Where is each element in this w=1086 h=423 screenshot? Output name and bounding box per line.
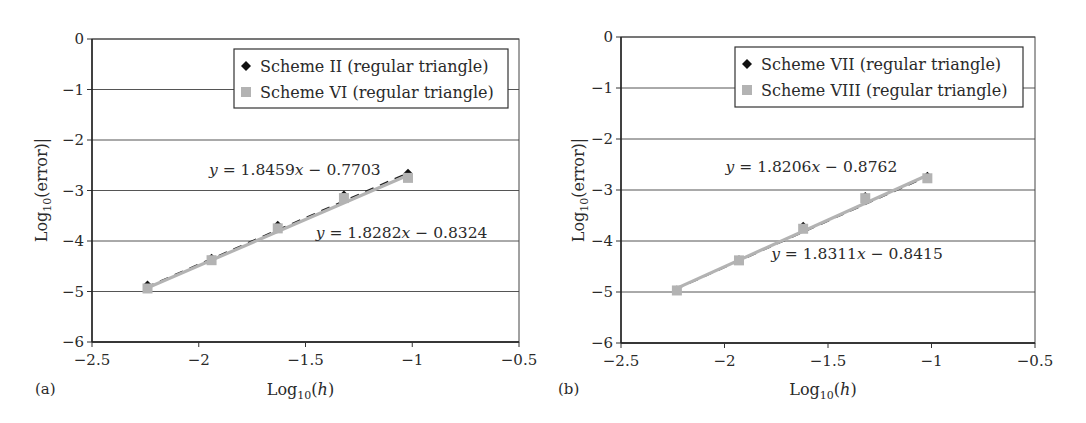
- y-tick-label: −4: [62, 232, 84, 250]
- x-tick-label: −0.5: [1017, 352, 1053, 370]
- y-tick-label: −6: [62, 333, 84, 351]
- legend: Scheme VII (regular triangle)Scheme VIII…: [735, 47, 1023, 107]
- data-point-square: [339, 193, 349, 203]
- x-tick-label: −1.5: [287, 351, 323, 369]
- y-tick-label: −2: [591, 130, 613, 148]
- x-tick-label: −1.5: [810, 352, 846, 370]
- y-axis-label: Log10(error)|: [32, 138, 54, 242]
- x-tick-label: −2: [713, 352, 735, 370]
- y-axis-label: Log10(error)|: [569, 138, 591, 242]
- panel-label: (a): [35, 380, 56, 398]
- x-tick-label: −2.5: [74, 351, 110, 369]
- y-tick-label: −5: [591, 283, 613, 301]
- legend-entry: Scheme II (regular triangle): [260, 57, 489, 76]
- legend-entry: Scheme VI (regular triangle): [260, 83, 494, 102]
- data-point-square: [672, 285, 682, 295]
- y-tick-label: −5: [62, 283, 84, 301]
- legend-marker-square-icon: [241, 87, 251, 97]
- data-point-square: [798, 224, 808, 234]
- panel-label: (b): [558, 380, 579, 398]
- data-point-square: [273, 223, 283, 233]
- fit-equation: y = 1.8206x − 0.8762: [725, 158, 898, 176]
- x-tick-label: −1: [920, 352, 942, 370]
- x-axis-label: Log10(h): [789, 380, 856, 402]
- y-tick-label: −2: [62, 131, 84, 149]
- y-tick-label: −6: [591, 334, 613, 352]
- x-tick-label: −0.5: [501, 351, 537, 369]
- data-point-square: [922, 173, 932, 183]
- y-tick-label: −1: [591, 79, 613, 97]
- y-tick-label: −1: [62, 81, 84, 99]
- x-tick-label: −2.5: [603, 352, 639, 370]
- y-tick-label: 0: [74, 30, 84, 48]
- x-tick-label: −1: [401, 351, 423, 369]
- fit-equation: y = 1.8282x − 0.8324: [315, 224, 488, 242]
- y-tick-label: −4: [591, 232, 613, 250]
- legend-entry: Scheme VIII (regular triangle): [761, 81, 1007, 100]
- fit-equation: y = 1.8459x − 0.7703: [208, 161, 381, 179]
- chart-panel-b: 0−1−2−3−4−5−6−2.5−2−1.5−1−0.5Log10(h)Log…: [558, 28, 1053, 402]
- figure: 0−1−2−3−4−5−6−2.5−2−1.5−1−0.5Log10(h)Log…: [0, 0, 1086, 423]
- data-point-square: [860, 193, 870, 203]
- data-point-square: [734, 255, 744, 265]
- data-point-square: [143, 283, 153, 293]
- legend-marker-square-icon: [742, 85, 752, 95]
- legend-entry: Scheme VII (regular triangle): [761, 55, 1001, 74]
- x-axis-label: Log10(h): [267, 380, 334, 402]
- chart-panel-a: 0−1−2−3−4−5−6−2.5−2−1.5−1−0.5Log10(h)Log…: [32, 30, 537, 402]
- data-point-square: [207, 255, 217, 265]
- y-tick-label: −3: [62, 182, 84, 200]
- data-point-square: [403, 173, 413, 183]
- x-tick-label: −2: [188, 351, 210, 369]
- y-tick-label: 0: [603, 28, 613, 46]
- y-tick-label: −3: [591, 181, 613, 199]
- fit-equation: y = 1.8311x − 0.8415: [770, 245, 943, 263]
- legend: Scheme II (regular triangle)Scheme VI (r…: [234, 49, 508, 108]
